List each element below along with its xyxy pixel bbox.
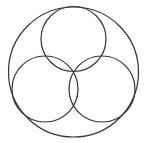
top-circle — [41, 7, 106, 72]
circle-group — [9, 7, 139, 138]
lower-right-circle — [69, 56, 135, 122]
lower-left-circle — [12, 56, 78, 122]
circles-diagram — [0, 0, 145, 143]
